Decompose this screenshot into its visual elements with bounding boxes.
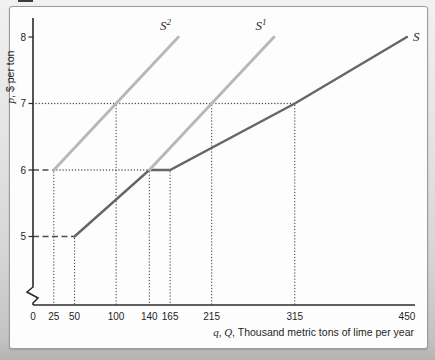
x-tick-label-450: 450 xyxy=(399,311,416,322)
x-tick-label-25: 25 xyxy=(48,311,60,322)
y-tick-label-6: 6 xyxy=(20,165,26,176)
x-tick-label-215: 215 xyxy=(203,311,220,322)
x-tick-label-50: 50 xyxy=(69,311,81,322)
supply-curves xyxy=(54,37,407,237)
x-tick-label-100: 100 xyxy=(108,311,125,322)
x-tick-label-0: 0 xyxy=(30,311,36,322)
x-axis-title-text: , Thousand metric tons of lime per year xyxy=(232,326,414,338)
supply-curve-S1 xyxy=(149,37,274,170)
guide-lines xyxy=(33,104,295,305)
y-tick-label-8: 8 xyxy=(20,32,26,43)
y-axis-title: p, $ per ton xyxy=(4,50,16,104)
page-background: 567802550100140165215315450SS1S2 p, $ pe… xyxy=(0,0,435,360)
x-tick-label-165: 165 xyxy=(162,311,179,322)
y-axis-title-text: , $ per ton xyxy=(4,50,16,97)
axes xyxy=(27,18,415,305)
supply-curve-S xyxy=(75,37,407,237)
supply-curves-chart: 567802550100140165215315450SS1S2 p, $ pe… xyxy=(0,0,435,360)
curve-label-S2: S2 xyxy=(160,17,172,33)
x-tick-label-140: 140 xyxy=(141,311,158,322)
x-tick-label-315: 315 xyxy=(286,311,303,322)
x-axis-title: q, Q, Thousand metric tons of lime per y… xyxy=(213,326,414,338)
x-axis-title-variable: q, Q xyxy=(213,326,232,338)
curve-label-S1: S1 xyxy=(255,17,266,33)
y-axis xyxy=(27,18,38,305)
curve-label-S: S xyxy=(413,29,420,44)
y-tick-label-7: 7 xyxy=(20,98,26,109)
y-tick-label-5: 5 xyxy=(20,231,26,242)
tick-and-curve-labels: 567802550100140165215315450SS1S2 xyxy=(20,17,420,322)
